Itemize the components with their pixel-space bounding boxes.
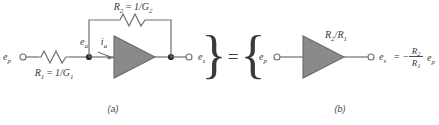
brace-right: } <box>202 26 227 83</box>
circuit-svg: ep R1 = 1/G1 ea ia <box>0 0 439 125</box>
input-label-ep-a: ep <box>3 51 11 65</box>
panel-b: ep R2/R1 es = − <box>259 29 435 114</box>
wire-feedback-right <box>149 20 171 57</box>
amplifier-triangle-b[interactable] <box>303 36 344 78</box>
caption-a: (a) <box>108 104 119 114</box>
resistor-r2-label: R2 = 1/G2 <box>113 1 153 15</box>
equals-sign: = <box>228 46 239 67</box>
output-terminal-circle-b[interactable] <box>368 54 374 60</box>
circuit-figure: ep R1 = 1/G1 ea ia <box>0 0 439 125</box>
resistor-r2-symbol <box>117 14 149 26</box>
caption-b: (b) <box>335 104 346 114</box>
output-equation-b: = − R2 R1 ep <box>394 46 435 69</box>
input-terminal-circle-a[interactable] <box>20 54 26 60</box>
node-label-ea: ea <box>80 36 88 50</box>
input-terminal-circle-b[interactable] <box>274 54 280 60</box>
equality-group: } = { <box>202 26 266 83</box>
output-terminal-circle-a[interactable] <box>186 54 192 60</box>
equation-denominator: R1 <box>411 58 421 69</box>
equation-equals: = <box>394 51 400 62</box>
resistor-r1-label: R1 = 1/G1 <box>34 67 74 81</box>
output-label-es-b: es <box>379 51 386 65</box>
resistor-r1-symbol <box>38 51 70 63</box>
amplifier-triangle-a[interactable] <box>114 36 155 78</box>
equation-variable: ep <box>427 52 435 66</box>
equation-numerator: R2 <box>411 46 422 57</box>
current-label-ia: ia <box>101 36 108 50</box>
gain-label-b: R2/R1 <box>324 29 347 43</box>
panel-a: ep R1 = 1/G1 ea ia <box>3 1 205 114</box>
equation-minus: − <box>403 51 409 62</box>
current-arrow-ia <box>98 52 113 60</box>
